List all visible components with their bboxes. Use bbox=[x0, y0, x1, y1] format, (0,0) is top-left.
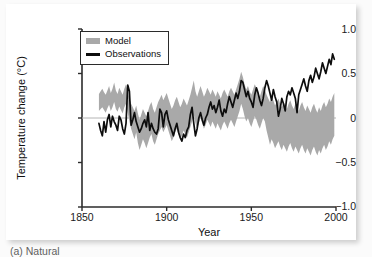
chart-legend: Model Observations bbox=[80, 31, 169, 65]
chart-plot bbox=[6, 4, 356, 240]
legend-label-observations: Observations bbox=[105, 49, 161, 59]
legend-swatch-model-icon bbox=[86, 38, 100, 44]
figure-caption: (a) Natural bbox=[10, 246, 60, 257]
legend-item-observations: Observations bbox=[86, 48, 161, 60]
legend-label-model: Model bbox=[105, 36, 131, 46]
legend-item-model: Model bbox=[86, 35, 161, 47]
legend-swatch-observations-icon bbox=[86, 53, 100, 56]
figure-root: Temperature change (°C) 1.0 0.5 0 −0.5 −… bbox=[0, 0, 372, 257]
chart-card: Temperature change (°C) 1.0 0.5 0 −0.5 −… bbox=[6, 4, 356, 240]
